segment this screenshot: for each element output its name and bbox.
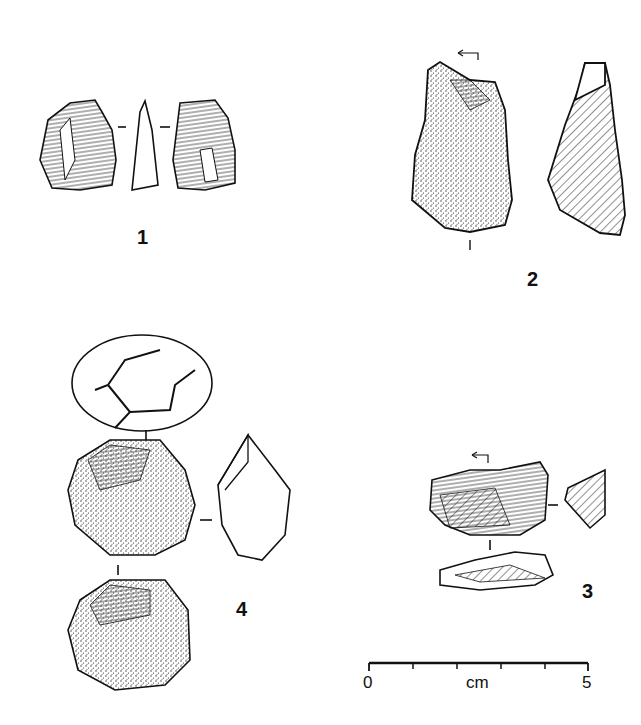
artifact-label-3: 3 (582, 580, 593, 603)
lithic-plate (0, 0, 641, 725)
scale-end-label: 5 (582, 673, 591, 693)
scale-unit-label: cm (466, 673, 489, 693)
artifact-label-2: 2 (527, 268, 538, 291)
scale-bar (369, 663, 588, 671)
artifact-label-1: 1 (137, 226, 148, 249)
artifact-2 (412, 50, 625, 250)
artifact-3 (430, 452, 605, 590)
scale-start-label: 0 (363, 673, 372, 693)
artifact-label-4: 4 (236, 598, 247, 621)
artifact-4 (68, 335, 290, 690)
artifact-1 (40, 100, 235, 190)
